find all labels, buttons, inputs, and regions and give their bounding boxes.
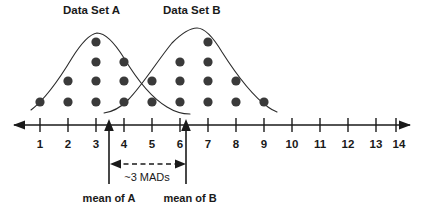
axis-tick-labels: 1 2 3 4 5 6 7 8 9 10 11 12 13 14 — [37, 138, 406, 150]
data-dot — [203, 76, 212, 85]
distribution-curve-a — [31, 33, 190, 114]
axis-tick-label: 6 — [177, 138, 183, 150]
data-dot — [119, 57, 128, 66]
axis-tick-label: 1 — [37, 138, 44, 150]
diagram-canvas: Data Set A Data Set B — [0, 0, 424, 210]
axis-tick-label: 10 — [286, 138, 299, 150]
number-line-axis — [13, 121, 411, 130]
dot-column-9 — [259, 97, 268, 106]
dataset-a-title: Data Set A — [63, 4, 120, 16]
axis-tick-label: 3 — [93, 138, 99, 150]
data-dot — [259, 97, 268, 106]
data-dot — [175, 57, 184, 66]
mad-annotation-label: ~3 MADs — [124, 171, 170, 183]
axis-tick-label: 14 — [393, 138, 406, 150]
mean-a-label: mean of A — [83, 192, 136, 204]
axis-tick-label: 8 — [233, 138, 240, 150]
data-dot — [119, 97, 128, 106]
data-dot — [147, 76, 156, 85]
data-dot — [203, 57, 212, 66]
dot-column-4 — [119, 57, 128, 106]
dot-column-2 — [63, 76, 72, 106]
data-dot — [91, 97, 100, 106]
axis-tick-label: 7 — [205, 138, 211, 150]
statistics-dot-plot: Data Set A Data Set B — [0, 0, 424, 210]
dot-column-3 — [91, 37, 100, 106]
mad-span-left-arrowhead — [110, 160, 121, 169]
data-dot — [35, 97, 44, 106]
mean-b-label: mean of B — [163, 192, 216, 204]
data-dot — [63, 76, 72, 85]
mad-span-right-arrowhead — [175, 160, 186, 169]
data-dot — [203, 97, 212, 106]
axis-tick-label: 13 — [370, 138, 383, 150]
data-dot — [147, 97, 156, 106]
mean-b-marker — [181, 119, 191, 184]
distribution-curve-b — [104, 28, 277, 113]
data-dot — [175, 76, 184, 85]
data-dot — [175, 97, 184, 106]
data-dot — [91, 76, 100, 85]
data-dot — [91, 37, 100, 46]
data-dot — [231, 76, 240, 85]
data-dot — [231, 97, 240, 106]
mad-span-arrow — [110, 160, 186, 169]
data-dot — [203, 37, 212, 46]
dot-column-7 — [203, 37, 212, 106]
axis-tick-label: 12 — [342, 138, 355, 150]
axis-tick-label: 2 — [65, 138, 71, 150]
axis-tick-label: 4 — [121, 138, 128, 150]
axis-right-arrowhead — [399, 121, 411, 130]
axis-left-arrowhead — [13, 121, 25, 130]
axis-tick-label: 11 — [314, 138, 327, 150]
axis-tick-label: 9 — [261, 138, 267, 150]
dataset-b-title: Data Set B — [163, 4, 221, 16]
dot-column-8 — [231, 76, 240, 106]
dot-column-1 — [35, 97, 44, 106]
data-dot — [63, 97, 72, 106]
axis-tick-label: 5 — [149, 138, 156, 150]
mean-a-marker — [104, 119, 114, 184]
data-dot — [119, 76, 128, 85]
dot-column-6 — [175, 57, 184, 106]
data-dot — [91, 57, 100, 66]
